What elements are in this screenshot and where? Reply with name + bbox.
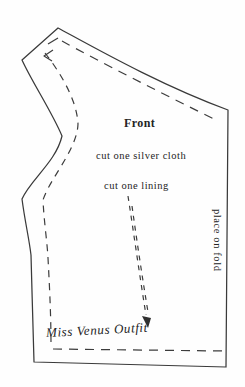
cut-instruction-lining-label: cut one lining (104, 181, 169, 192)
waist-seam-dashed-line (53, 349, 225, 351)
grainline-dashed-right (132, 206, 148, 312)
piece-name-label: Front (124, 117, 155, 129)
shoulder-seam-dash (48, 38, 58, 44)
place-on-fold-label: place on fold (212, 207, 223, 273)
sewing-pattern-sheet: Front cut one silver cloth cut one linin… (0, 0, 245, 387)
grainline-dashed-left (128, 196, 146, 315)
side-seam-dashed-line (43, 53, 78, 346)
neckline-seam-dashed-line (62, 41, 218, 121)
shoulder-arrow-icon (44, 50, 53, 61)
cut-instruction-cloth-label: cut one silver cloth (96, 151, 186, 162)
pattern-outline (22, 28, 228, 367)
